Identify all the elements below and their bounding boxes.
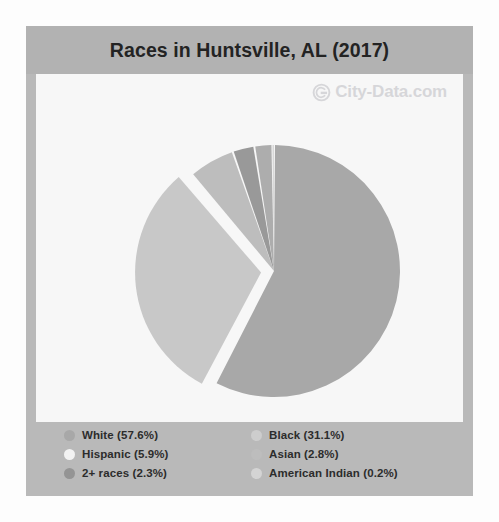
legend-item-black[interactable]: Black (31.1%) [251,426,398,444]
screenshot-root: Races in Huntsville, AL (2017) City-Data… [0,0,499,522]
legend-swatch-black [251,430,262,441]
chart-title-band: Races in Huntsville, AL (2017) [26,26,473,74]
legend-column-right: Black (31.1%) Asian (2.8%) American Indi… [251,426,398,483]
legend-item-american-indian[interactable]: American Indian (0.2%) [251,464,398,482]
legend-label-hispanic: Hispanic (5.9%) [82,448,169,460]
legend-swatch-white [64,430,75,441]
legend-column-left: White (57.6%) Hispanic (5.9%) 2+ races (… [64,426,169,483]
page-title: Races in Huntsville, AL (2017) [110,39,389,62]
chart-card: Races in Huntsville, AL (2017) City-Data… [26,26,473,496]
legend-label-white: White (57.6%) [82,429,158,441]
legend-item-white[interactable]: White (57.6%) [64,426,169,444]
chart-legend: White (57.6%) Hispanic (5.9%) 2+ races (… [36,426,463,490]
legend-label-black: Black (31.1%) [269,429,344,441]
legend-swatch-hispanic [64,449,75,460]
legend-swatch-asian [251,449,262,460]
legend-item-hispanic[interactable]: Hispanic (5.9%) [64,445,169,463]
legend-label-2plus-races: 2+ races (2.3%) [82,467,167,479]
legend-label-american-indian: American Indian (0.2%) [269,467,398,479]
legend-item-2plus-races[interactable]: 2+ races (2.3%) [64,464,169,482]
pie-chart-plot-area: City-Data.com [36,74,463,422]
pie-chart-svg [36,74,463,422]
pie-slice-group [135,145,400,397]
legend-label-asian: Asian (2.8%) [269,448,339,460]
legend-item-asian[interactable]: Asian (2.8%) [251,445,398,463]
legend-swatch-2plus-races [64,468,75,479]
legend-swatch-american-indian [251,468,262,479]
